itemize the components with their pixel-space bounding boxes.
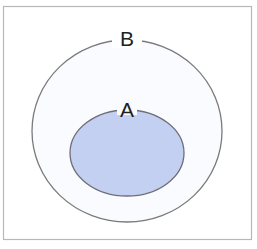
venn-diagram: B A bbox=[0, 0, 257, 249]
set-a-label: A bbox=[120, 98, 134, 121]
set-a-ellipse bbox=[70, 110, 184, 196]
set-b-label: B bbox=[120, 27, 134, 50]
